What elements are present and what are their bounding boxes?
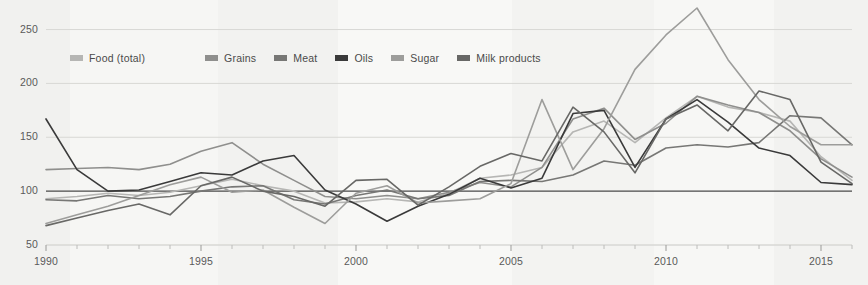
legend-swatch-icon — [457, 55, 470, 61]
legend-swatch-icon — [391, 55, 404, 61]
y-axis-tick-label: 150 — [4, 130, 38, 142]
x-axis-tick-label: 1990 — [24, 255, 68, 267]
legend-swatch-icon — [70, 55, 83, 61]
x-axis-tick-label: 2015 — [799, 255, 843, 267]
legend-label: Sugar — [410, 52, 439, 64]
y-axis-tick-label: 50 — [4, 238, 38, 250]
x-axis-tick-label: 1995 — [179, 255, 223, 267]
chart-plot-area — [0, 0, 868, 285]
x-axis-tick-label: 2010 — [644, 255, 688, 267]
food-price-index-chart: Food (total)GrainsMeatOilsSugarMilk prod… — [0, 0, 868, 285]
legend-label: Oils — [354, 52, 373, 64]
legend-label: Grains — [224, 52, 256, 64]
series-line — [46, 91, 852, 226]
legend-swatch-icon — [205, 55, 218, 61]
legend-item[interactable]: Oils — [335, 52, 373, 64]
legend-label: Milk products — [476, 52, 540, 64]
legend-item[interactable]: Milk products — [457, 52, 540, 64]
legend-item[interactable]: Grains — [205, 52, 256, 64]
legend-item[interactable]: Meat — [274, 52, 317, 64]
x-axis-tick-label: 2000 — [334, 255, 378, 267]
legend-swatch-icon — [335, 55, 348, 61]
series-line — [46, 96, 852, 198]
legend-label: Food (total) — [89, 52, 145, 64]
y-axis-tick-label: 100 — [4, 184, 38, 196]
series-line — [46, 100, 852, 222]
legend-item[interactable]: Food (total) — [70, 52, 145, 64]
y-axis-tick-label: 200 — [4, 76, 38, 88]
legend-item[interactable]: Sugar — [391, 52, 439, 64]
chart-legend: Food (total)GrainsMeatOilsSugarMilk prod… — [70, 52, 559, 64]
x-axis-tick-label: 2005 — [489, 255, 533, 267]
y-axis-tick-label: 250 — [4, 23, 38, 35]
legend-swatch-icon — [274, 55, 287, 61]
legend-label: Meat — [293, 52, 317, 64]
